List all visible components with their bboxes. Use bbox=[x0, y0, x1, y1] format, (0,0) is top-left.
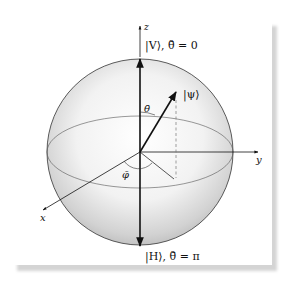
x-axis-label: x bbox=[40, 212, 46, 223]
y-axis-label: y bbox=[255, 154, 262, 165]
phi-label: φ̄ bbox=[122, 169, 129, 180]
bloch-sphere-diagram: z y x |V⟩, θ̄ = 0 |H⟩, θ̄ = π |ψ⟩ θ̄ φ̄ bbox=[0, 0, 294, 288]
bottom-pole-label: |H⟩, θ̄ = π bbox=[145, 250, 200, 264]
top-pole-label: |V⟩, θ̄ = 0 bbox=[145, 39, 198, 53]
theta-label: θ̄ bbox=[144, 103, 150, 114]
z-axis-label: z bbox=[143, 22, 149, 32]
state-vector-label: |ψ⟩ bbox=[183, 88, 200, 102]
